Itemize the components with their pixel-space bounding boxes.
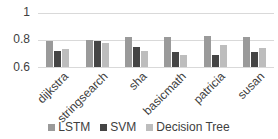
y-tick-label: 1 — [0, 6, 30, 18]
legend-label: Decision Tree — [156, 120, 229, 134]
bar-lstm — [164, 37, 171, 67]
bar-svm — [172, 52, 179, 67]
y-tick-label: 0.6 — [0, 61, 30, 73]
bar-decision-tree — [102, 43, 109, 67]
x-tick-label: susan — [236, 70, 267, 101]
legend-item-lstm: LSTM — [48, 120, 90, 134]
bar-decision-tree — [180, 55, 187, 67]
x-tick-label: sha — [127, 70, 149, 92]
bar-lstm — [204, 36, 211, 67]
legend: LSTM SVM Decision Tree — [0, 120, 278, 134]
legend-item-decision-tree: Decision Tree — [146, 120, 229, 134]
bar-svm — [133, 47, 140, 67]
legend-swatch — [100, 124, 107, 131]
bar-svm — [94, 41, 101, 67]
bar-svm — [54, 51, 61, 67]
bar-chart: 1 0.8 0.6 dijkstrastringsearchshabasicma… — [0, 0, 278, 139]
x-tick-label: dijkstra — [35, 70, 70, 105]
bar-svm — [212, 55, 219, 67]
legend-swatch — [48, 124, 55, 131]
bar-lstm — [86, 40, 93, 67]
axis-baseline — [38, 67, 274, 68]
plot-area — [38, 13, 274, 67]
bar-svm — [251, 52, 258, 67]
bar-lstm — [125, 37, 132, 67]
legend-label: LSTM — [58, 120, 90, 134]
x-tick-label: patricia — [191, 70, 227, 106]
legend-label: SVM — [110, 120, 136, 134]
legend-swatch — [146, 124, 153, 131]
y-tick-label: 0.8 — [0, 33, 30, 45]
bar-lstm — [46, 41, 53, 67]
bar-decision-tree — [259, 48, 266, 67]
bar-decision-tree — [62, 49, 69, 67]
bar-decision-tree — [141, 51, 148, 67]
bar-lstm — [243, 37, 250, 67]
bar-decision-tree — [220, 45, 227, 67]
legend-item-svm: SVM — [100, 120, 136, 134]
